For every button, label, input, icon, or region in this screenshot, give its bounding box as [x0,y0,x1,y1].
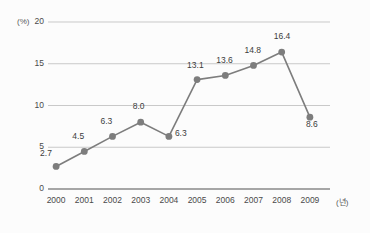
x-axis-tick-2005: 2005 [182,195,212,205]
series-line [56,52,310,166]
data-point-marker [81,148,88,155]
y-axis-tick-0: 0 [22,183,44,193]
data-point-marker [166,133,173,140]
data-label-2000: 2.7 [40,148,52,158]
data-point-marker [278,49,285,56]
gridlines [48,22,330,189]
x-axis-tick-2001: 2001 [69,195,99,205]
data-point-marker [53,163,60,170]
data-label-2007: 14.8 [245,45,262,55]
data-point-marker [137,119,144,126]
data-label-2001: 4.5 [72,131,84,141]
data-label-2004: 6.3 [175,128,187,138]
data-label-2008: 16.4 [274,31,291,41]
y-axis-tick-15: 15 [22,58,44,68]
data-point-marker [194,76,201,83]
x-axis-tick-2002: 2002 [98,195,128,205]
data-point-marker [109,133,116,140]
x-axis-tick-2006: 2006 [210,195,240,205]
data-label-2006: 13.6 [216,55,233,65]
y-axis-tick-10: 10 [22,100,44,110]
x-axis-tick-2007: 2007 [239,195,269,205]
x-axis-tick-2008: 2008 [267,195,297,205]
line-chart: (%) (년) 05101520 20002001200220032004200… [0,0,370,233]
x-axis-tick-2009: 2009 [295,195,325,205]
y-axis-tick-20: 20 [22,16,44,26]
x-axis-tick-2003: 2003 [126,195,156,205]
data-label-2003: 8.0 [133,101,145,111]
data-point-marker [250,62,257,69]
data-point-marker [222,72,229,79]
data-label-2005: 13.1 [187,60,204,70]
data-label-2009: 8.6 [306,119,318,129]
x-axis-tick-2004: 2004 [154,195,184,205]
data-label-2002: 6.3 [101,116,113,126]
x-axis-tick-2000: 2000 [41,195,71,205]
